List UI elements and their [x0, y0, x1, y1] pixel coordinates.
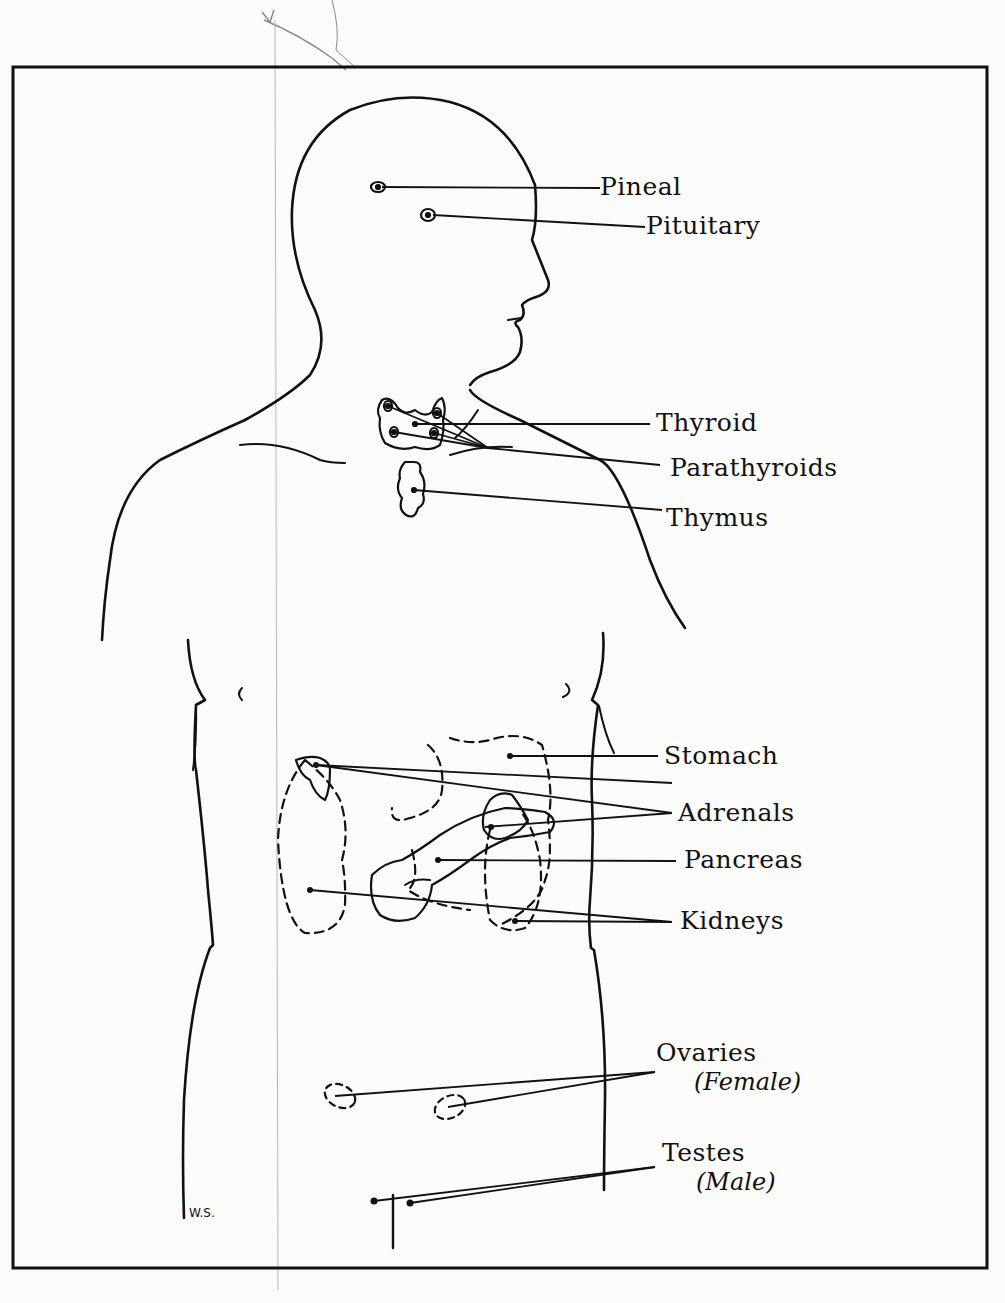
- label-stomach: Stomach: [664, 743, 778, 768]
- diagram-frame: [13, 67, 987, 1268]
- label-pancreas: Pancreas: [684, 847, 803, 872]
- collar-left: [240, 444, 345, 463]
- label-adrenals: Adrenals: [678, 800, 795, 825]
- label-testes-note: (Male): [696, 1170, 776, 1194]
- rib-right: [599, 706, 614, 753]
- label-kidneys: Kidneys: [680, 908, 784, 933]
- torso-left: [183, 640, 213, 1218]
- head-outline: [245, 98, 549, 421]
- artist-signature: W.S.: [189, 1206, 215, 1220]
- label-ovaries: Ovaries: [656, 1040, 757, 1065]
- label-thyroid: Thyroid: [656, 410, 757, 435]
- endocrine-diagram: [0, 0, 1005, 1303]
- torso-right: [589, 633, 605, 1190]
- label-parathyroids: Parathyroids: [670, 455, 838, 480]
- label-thymus: Thymus: [666, 505, 769, 530]
- label-pituitary: Pituitary: [646, 213, 761, 238]
- label-testes: Testes: [662, 1140, 745, 1165]
- nipple-right: [563, 684, 569, 697]
- nipple-left: [239, 688, 242, 700]
- label-pineal: Pineal: [600, 174, 682, 199]
- stomach-outline: [392, 736, 551, 925]
- collar-right: [450, 447, 512, 455]
- pencil-marks: [262, 0, 356, 1290]
- shoulder-left: [102, 420, 245, 640]
- label-ovaries-note: (Female): [694, 1070, 801, 1094]
